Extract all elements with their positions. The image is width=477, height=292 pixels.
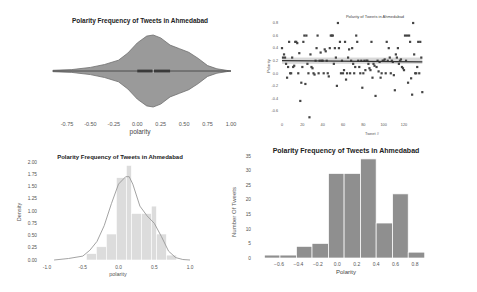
- data-point: [374, 95, 376, 97]
- scatter-points: [281, 22, 424, 118]
- data-point: [299, 100, 301, 102]
- data-point: [372, 63, 374, 65]
- data-point: [323, 72, 325, 74]
- figure-grid: Polarity Frequency of Tweets in Ahmedaba…: [0, 0, 477, 292]
- data-point: [418, 72, 420, 74]
- data-point: [413, 53, 415, 55]
- data-point: [395, 53, 397, 55]
- violin-box: [137, 70, 170, 73]
- data-point: [286, 77, 288, 79]
- data-point: [354, 66, 356, 68]
- data-point: [367, 63, 369, 65]
- histogram-bar: [116, 178, 126, 260]
- data-point: [327, 72, 329, 74]
- histogram-bar: [131, 213, 141, 260]
- data-point: [394, 89, 396, 91]
- data-point: [393, 74, 395, 76]
- data-point: [411, 94, 413, 96]
- histogram-bar: [361, 159, 377, 258]
- data-point: [416, 66, 418, 68]
- density-title: Polarity Frequency of Tweets in Ahmedaba…: [57, 154, 183, 160]
- x-tick-label: -0.5: [79, 265, 88, 270]
- data-point: [421, 91, 423, 93]
- data-point: [359, 72, 361, 74]
- data-point: [303, 34, 305, 36]
- data-point: [412, 22, 414, 24]
- x-tick-label: −0.2: [313, 261, 323, 267]
- y-tick-label: 1.75: [28, 172, 38, 177]
- x-tick-label: 100: [380, 123, 386, 127]
- data-point: [318, 72, 320, 74]
- data-point: [335, 56, 337, 58]
- data-point: [333, 63, 335, 65]
- data-point: [300, 82, 302, 84]
- scatter-chart: Polarity of Tweets in Ahmedabad 0.80.60.…: [266, 14, 423, 136]
- data-point: [353, 72, 355, 74]
- y-tick-label: 5: [248, 241, 251, 246]
- x-tick-label: −0.4: [293, 261, 303, 267]
- y-tick-label: 30: [246, 168, 252, 173]
- data-point: [320, 51, 322, 53]
- x-tick-label: 0.5: [151, 265, 158, 270]
- data-point: [398, 63, 400, 65]
- data-point: [281, 47, 283, 49]
- x-tick-label: -0.75: [61, 121, 74, 127]
- y-tick-label: -0.4: [271, 97, 278, 101]
- data-point: [386, 41, 388, 43]
- data-point: [347, 56, 349, 58]
- data-point: [324, 48, 326, 50]
- data-point: [288, 41, 290, 43]
- data-point: [417, 41, 419, 43]
- y-tick-label: 35: [246, 154, 252, 159]
- x-tick-label: 0.0: [334, 261, 341, 267]
- y-tick-label: 0.25: [28, 245, 38, 250]
- data-point: [385, 72, 387, 74]
- data-point: [368, 67, 370, 69]
- data-point: [388, 47, 390, 49]
- histogram-bar: [296, 246, 312, 258]
- data-point: [316, 34, 318, 36]
- density-bars: [86, 165, 176, 260]
- y-tick-label: 1.00: [28, 209, 38, 214]
- y-tick-label: 2.00: [28, 160, 38, 165]
- y-tick-label: 0.50: [28, 233, 38, 238]
- x-tick-label: -0.50: [84, 121, 97, 127]
- x-tick-label: −0.6: [274, 261, 284, 267]
- x-tick-label: 0.50: [179, 121, 190, 127]
- data-point: [283, 53, 285, 55]
- histogram-bar: [344, 173, 361, 258]
- data-point: [400, 58, 402, 60]
- data-point: [334, 47, 336, 49]
- count-y-ticks: 05101520253035: [246, 154, 252, 261]
- violin-xlabel: polarity: [130, 128, 152, 136]
- data-point: [302, 41, 304, 43]
- data-point: [370, 41, 372, 43]
- data-point: [328, 75, 330, 77]
- histogram-bar: [166, 255, 176, 260]
- x-tick-label: -1.0: [43, 265, 52, 270]
- scatter-x-ticks: 020406080100120: [281, 123, 407, 127]
- x-tick-label: 0.4: [373, 261, 380, 267]
- data-point: [346, 72, 348, 74]
- data-point: [373, 65, 375, 67]
- scatter-ylabel: Polarity: [266, 59, 271, 72]
- data-point: [338, 47, 340, 49]
- x-tick-label: 0.8: [412, 261, 419, 267]
- data-point: [307, 72, 309, 74]
- x-tick-label: 120: [401, 123, 407, 127]
- histogram-bar: [393, 194, 409, 258]
- y-tick-label: 0.75: [28, 221, 38, 226]
- data-point: [290, 72, 292, 74]
- count-ylabel: Number Of Tweets: [231, 187, 237, 237]
- data-point: [313, 73, 315, 75]
- x-tick-label: 0.2: [353, 261, 360, 267]
- density-y-ticks: 0.000.250.500.751.001.251.501.752.00: [28, 160, 38, 263]
- data-point: [297, 72, 299, 74]
- data-point: [397, 47, 399, 49]
- data-point: [309, 53, 311, 55]
- x-tick-label: 20: [300, 123, 304, 127]
- density-histogram-chart: Polarity Frequency of Tweets in Ahmedaba…: [16, 154, 194, 277]
- data-point: [348, 48, 350, 50]
- x-tick-label: 0.0: [115, 265, 122, 270]
- data-point: [377, 70, 379, 72]
